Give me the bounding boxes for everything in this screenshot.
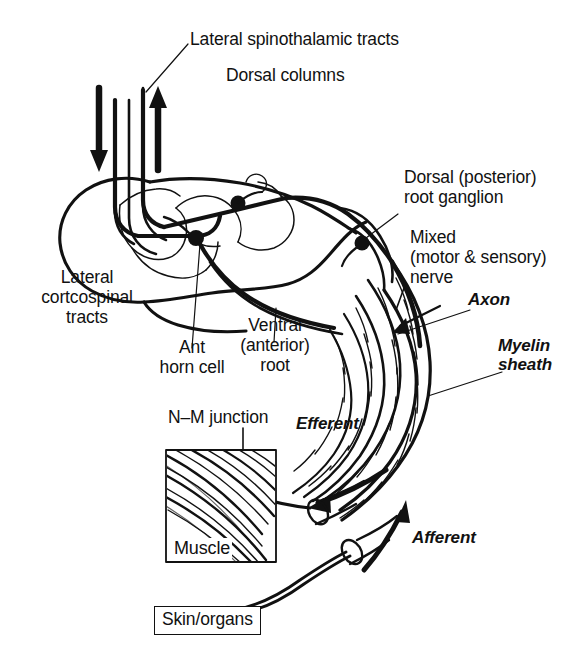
label-lateral-spinothalamic-tracts: Lateral spinothalamic tracts: [190, 30, 399, 50]
ascending-sensory-arrow: [149, 86, 167, 170]
grey-matter-butterfly: [120, 182, 295, 278]
figure-canvas: Lateral spinothalamic tracts Dorsal colu…: [0, 0, 580, 664]
label-dorsal-columns: Dorsal columns: [226, 66, 345, 86]
label-muscle: Muscle: [172, 538, 232, 559]
label-lateral-corticospinal-tracts: Lateral cortcospinal tracts: [24, 268, 150, 328]
cut-nerve-end-afferent: [337, 516, 397, 568]
label-myelin-sheath: Myelin sheath: [498, 336, 552, 375]
label-ventral-root: Ventral (anterior) root: [214, 316, 336, 376]
afferent-arrow: [364, 500, 410, 570]
label-efferent: Efferent: [296, 414, 359, 433]
sensory-ascending-pathway: [143, 90, 286, 227]
label-dorsal-root-ganglion: Dorsal (posterior) root ganglion: [404, 168, 536, 208]
leader-myelin-sheath: [428, 372, 502, 396]
label-skin-organs: Skin/organs: [154, 606, 261, 635]
leader-dorsal-root-ganglion: [366, 214, 398, 238]
leader-lateral-spinothalamic: [146, 44, 188, 92]
label-mixed-nerve: Mixed (motor & sensory) nerve: [410, 228, 547, 288]
label-afferent: Afferent: [412, 528, 476, 547]
label-axon: Axon: [468, 290, 510, 309]
descending-motor-arrow: [90, 88, 108, 172]
leader-nerve-tick: [396, 288, 404, 310]
label-nm-junction: N–M junction: [168, 408, 268, 428]
